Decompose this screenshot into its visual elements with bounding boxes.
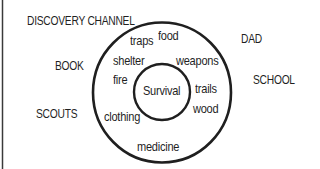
item-fire: fire [113,73,127,87]
item-wood: wood [193,102,218,116]
source-discovery-channel: DISCOVERY CHANNEL [27,14,135,28]
item-weapons: weapons [176,54,218,68]
item-shelter: shelter [113,54,144,68]
item-traps: traps [130,34,153,48]
source-book: BOOK [55,59,84,73]
source-scouts: SCOUTS [36,107,77,121]
item-trails: trails [195,82,217,96]
item-clothing: clothing [104,110,140,124]
source-dad: DAD [241,32,262,46]
source-school: SCHOOL [253,73,295,87]
item-food: food [158,29,178,43]
center-topic: Survival [143,84,180,98]
item-medicine: medicine [137,140,179,154]
